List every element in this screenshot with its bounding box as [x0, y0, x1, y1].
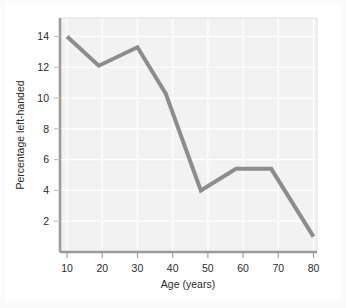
chart-figure: 1020304050607080 2468101214 Age (years) …: [0, 0, 346, 308]
y-tick-label: 14: [37, 30, 49, 42]
y-tick-label: 10: [37, 92, 49, 104]
x-tick-label: 30: [132, 262, 144, 274]
x-tick-label: 10: [61, 262, 73, 274]
x-tick-label: 60: [237, 262, 249, 274]
y-tick-label: 6: [43, 153, 49, 165]
y-axis-title: Percentage left-handed: [14, 80, 26, 189]
y-tick-label: 12: [37, 61, 49, 73]
line-chart: 1020304050607080 2468101214 Age (years) …: [0, 0, 346, 308]
x-tick-label: 20: [96, 262, 108, 274]
x-axis-tick-labels: 1020304050607080: [61, 262, 319, 274]
y-axis-tick-labels: 2468101214: [37, 30, 49, 227]
y-tick-label: 2: [43, 215, 49, 227]
x-axis-title: Age (years): [161, 278, 215, 290]
y-tick-label: 8: [43, 123, 49, 135]
y-tick-label: 4: [43, 184, 49, 196]
x-tick-label: 40: [167, 262, 179, 274]
x-tick-label: 80: [308, 262, 320, 274]
x-tick-label: 50: [202, 262, 214, 274]
x-tick-label: 70: [272, 262, 284, 274]
